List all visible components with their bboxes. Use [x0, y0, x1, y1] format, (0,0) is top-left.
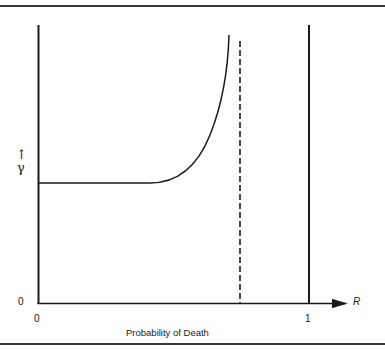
gamma-symbol: γ — [16, 161, 26, 174]
x-axis-title: Probability of Death — [126, 327, 209, 338]
y-tick-zero: 0 — [18, 296, 24, 307]
x-tick-one: 1 — [305, 313, 311, 324]
chart-plot — [0, 0, 385, 349]
y-axis-label: ↑ γ — [16, 148, 26, 174]
gamma-curve — [39, 35, 229, 183]
x-axis-variable: R — [353, 296, 360, 307]
x-tick-zero: 0 — [34, 313, 40, 324]
